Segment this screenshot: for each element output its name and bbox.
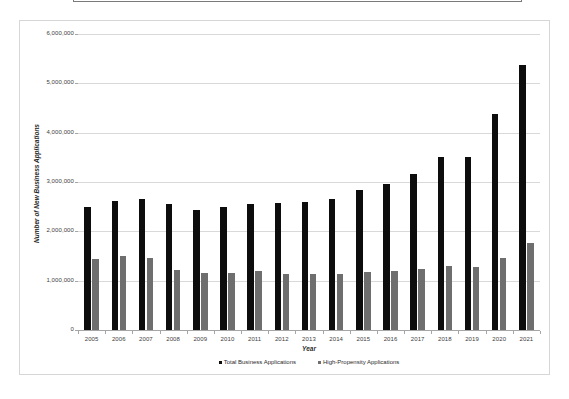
bar-total-business-applications[interactable]: [438, 157, 445, 330]
bar-total-business-applications[interactable]: [112, 201, 119, 330]
legend-item[interactable]: Total Business Applications: [219, 359, 296, 365]
bar-group: [187, 34, 214, 330]
bar-high-propensity-applications[interactable]: [92, 259, 99, 330]
bar-total-business-applications[interactable]: [275, 203, 282, 330]
x-tick-mark: [78, 331, 79, 334]
y-tick-label: 3,000,000: [22, 178, 74, 184]
x-tick-mark: [268, 331, 269, 334]
y-tick-label: 6,000,000: [22, 30, 74, 36]
x-tick-label: 2019: [458, 336, 485, 342]
bar-group: [214, 34, 241, 330]
bar-high-propensity-applications[interactable]: [473, 267, 480, 330]
bar-group: [350, 34, 377, 330]
y-tick-label: 0: [22, 326, 74, 332]
bar-high-propensity-applications[interactable]: [201, 273, 208, 330]
x-tick-label: 2021: [513, 336, 540, 342]
chart-legend: Total Business ApplicationsHigh-Propensi…: [78, 359, 540, 365]
y-tick-label: 5,000,000: [22, 79, 74, 85]
bar-total-business-applications[interactable]: [166, 204, 173, 330]
x-tick-label: 2006: [105, 336, 132, 342]
bar-high-propensity-applications[interactable]: [418, 269, 425, 330]
bar-total-business-applications[interactable]: [193, 210, 200, 330]
x-tick-mark: [513, 331, 514, 334]
x-tick-label: 2011: [241, 336, 268, 342]
x-tick-label: 2014: [323, 336, 350, 342]
bar-group: [78, 34, 105, 330]
x-tick-label: 2009: [187, 336, 214, 342]
x-tick-mark: [160, 331, 161, 334]
bar-group: [241, 34, 268, 330]
x-tick-mark: [105, 331, 106, 334]
bar-high-propensity-applications[interactable]: [228, 273, 235, 330]
bar-high-propensity-applications[interactable]: [500, 258, 507, 330]
bar-total-business-applications[interactable]: [329, 199, 336, 330]
x-tick-label: 2010: [214, 336, 241, 342]
bar-group: [323, 34, 350, 330]
x-tick-mark: [404, 331, 405, 334]
x-tick-label: 2016: [377, 336, 404, 342]
x-tick-mark: [458, 331, 459, 334]
x-tick-mark: [540, 331, 541, 334]
bar-group: [431, 34, 458, 330]
bar-high-propensity-applications[interactable]: [391, 271, 398, 330]
x-tick-mark: [295, 331, 296, 334]
bar-total-business-applications[interactable]: [139, 199, 146, 330]
y-tick-label: 2,000,000: [22, 227, 74, 233]
x-axis-line: [78, 330, 540, 331]
bar-high-propensity-applications[interactable]: [283, 274, 290, 330]
bar-high-propensity-applications[interactable]: [310, 274, 317, 330]
bar-total-business-applications[interactable]: [492, 114, 499, 330]
bar-high-propensity-applications[interactable]: [147, 258, 154, 330]
bar-total-business-applications[interactable]: [356, 190, 363, 330]
x-tick-label: 2015: [350, 336, 377, 342]
bar-group: [404, 34, 431, 330]
bar-group: [268, 34, 295, 330]
x-tick-label: 2007: [132, 336, 159, 342]
bar-total-business-applications[interactable]: [519, 65, 526, 330]
x-tick-mark: [431, 331, 432, 334]
bar-group: [105, 34, 132, 330]
x-tick-label: 2013: [295, 336, 322, 342]
bar-high-propensity-applications[interactable]: [174, 270, 181, 330]
x-tick-label: 2012: [268, 336, 295, 342]
bar-group: [160, 34, 187, 330]
legend-label: High-Propensity Applications: [323, 359, 399, 365]
x-tick-mark: [132, 331, 133, 334]
bar-total-business-applications[interactable]: [465, 157, 472, 330]
x-tick-mark: [377, 331, 378, 334]
x-tick-label: 2018: [431, 336, 458, 342]
bar-high-propensity-applications[interactable]: [120, 256, 127, 330]
bar-group: [458, 34, 485, 330]
bar-high-propensity-applications[interactable]: [337, 274, 344, 330]
x-tick-label: 2017: [404, 336, 431, 342]
bar-total-business-applications[interactable]: [84, 207, 91, 330]
x-tick-label: 2008: [160, 336, 187, 342]
bar-chart: 01,000,0002,000,0003,000,0004,000,0005,0…: [0, 0, 569, 399]
x-tick-mark: [350, 331, 351, 334]
bar-total-business-applications[interactable]: [302, 202, 309, 330]
legend-label: Total Business Applications: [224, 359, 296, 365]
y-tick-label: 1,000,000: [22, 277, 74, 283]
bar-group: [295, 34, 322, 330]
bar-total-business-applications[interactable]: [410, 174, 417, 330]
bar-group: [486, 34, 513, 330]
x-axis-title: Year: [78, 345, 540, 352]
bar-total-business-applications[interactable]: [220, 207, 227, 330]
bar-high-propensity-applications[interactable]: [364, 272, 371, 330]
x-tick-mark: [187, 331, 188, 334]
legend-swatch-icon: [219, 361, 222, 364]
x-tick-label: 2005: [78, 336, 105, 342]
bar-high-propensity-applications[interactable]: [527, 243, 534, 330]
legend-item[interactable]: High-Propensity Applications: [318, 359, 399, 365]
x-tick-mark: [214, 331, 215, 334]
bar-high-propensity-applications[interactable]: [255, 271, 262, 330]
bar-high-propensity-applications[interactable]: [446, 266, 453, 330]
bar-total-business-applications[interactable]: [247, 204, 254, 330]
y-axis-title: Number of New Business Applications: [33, 84, 40, 284]
y-tick-label: 4,000,000: [22, 129, 74, 135]
bar-group: [513, 34, 540, 330]
bar-group: [377, 34, 404, 330]
bar-total-business-applications[interactable]: [383, 184, 390, 330]
x-tick-mark: [486, 331, 487, 334]
x-tick-label: 2020: [486, 336, 513, 342]
